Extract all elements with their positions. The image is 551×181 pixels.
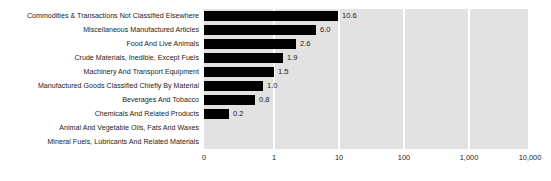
bar-row: 1.5 (204, 65, 530, 79)
category-label: Animal And Vegetable Oils, Fats And Waxe… (0, 121, 202, 135)
bar-value-label: 1.5 (274, 66, 289, 78)
x-tick-label: 10,000 (519, 152, 542, 164)
bar-value-label: 0.8 (255, 94, 270, 106)
x-tick-label: 1,000 (460, 152, 479, 164)
category-label: Beverages And Tobacco (0, 93, 202, 107)
bar-value-label: 10.6 (338, 10, 357, 22)
category-label: Chemicals And Related Products (0, 107, 202, 121)
bar-row: 0.2 (204, 107, 530, 121)
category-label: Miscellaneous Manufactured Articles (0, 23, 202, 37)
bar-row (204, 135, 530, 149)
bar-row: 6.0 (204, 23, 530, 37)
bar-value-label: 1.0 (263, 80, 278, 92)
x-tick-label: 10 (335, 152, 343, 164)
plot-area: 10.66.02.61.91.51.00.80.2 (204, 9, 530, 149)
bar-value-label: 2.6 (296, 38, 311, 50)
bar (204, 95, 255, 105)
bar (204, 67, 274, 77)
category-axis-labels: Commodities & Transactions Not Classifie… (0, 9, 202, 149)
category-label: Crude Materials, Inedible, Except Fuels (0, 51, 202, 65)
bar-row: 2.6 (204, 37, 530, 51)
x-tick-label: 100 (398, 152, 410, 164)
bar (204, 11, 338, 21)
category-label: Commodities & Transactions Not Classifie… (0, 9, 202, 23)
bar-value-label: 0.2 (229, 108, 244, 120)
bar (204, 25, 316, 35)
category-label: Machinery And Transport Equipment (0, 65, 202, 79)
bar (204, 39, 296, 49)
bar-value-label: 1.9 (283, 52, 298, 64)
bar (204, 81, 263, 91)
category-label: Manufactured Goods Classified Chiefly By… (0, 79, 202, 93)
bar-row (204, 121, 530, 135)
x-tick-label: 1 (272, 152, 276, 164)
bar (204, 109, 229, 119)
bar-row: 1.0 (204, 79, 530, 93)
x-axis-tick-labels: 01101001,00010,000 (204, 152, 530, 166)
bar-row: 10.6 (204, 9, 530, 23)
bar-row: 0.8 (204, 93, 530, 107)
x-tick-label: 0 (202, 152, 206, 164)
bar-series: 10.66.02.61.91.51.00.80.2 (204, 9, 530, 149)
bar (204, 53, 283, 63)
bar-row: 1.9 (204, 51, 530, 65)
category-label: Food And Live Animals (0, 37, 202, 51)
horizontal-bar-chart: Commodities & Transactions Not Classifie… (0, 0, 551, 181)
bar-value-label: 6.0 (316, 24, 331, 36)
category-label: Mineral Fuels, Lubricants And Related Ma… (0, 135, 202, 149)
